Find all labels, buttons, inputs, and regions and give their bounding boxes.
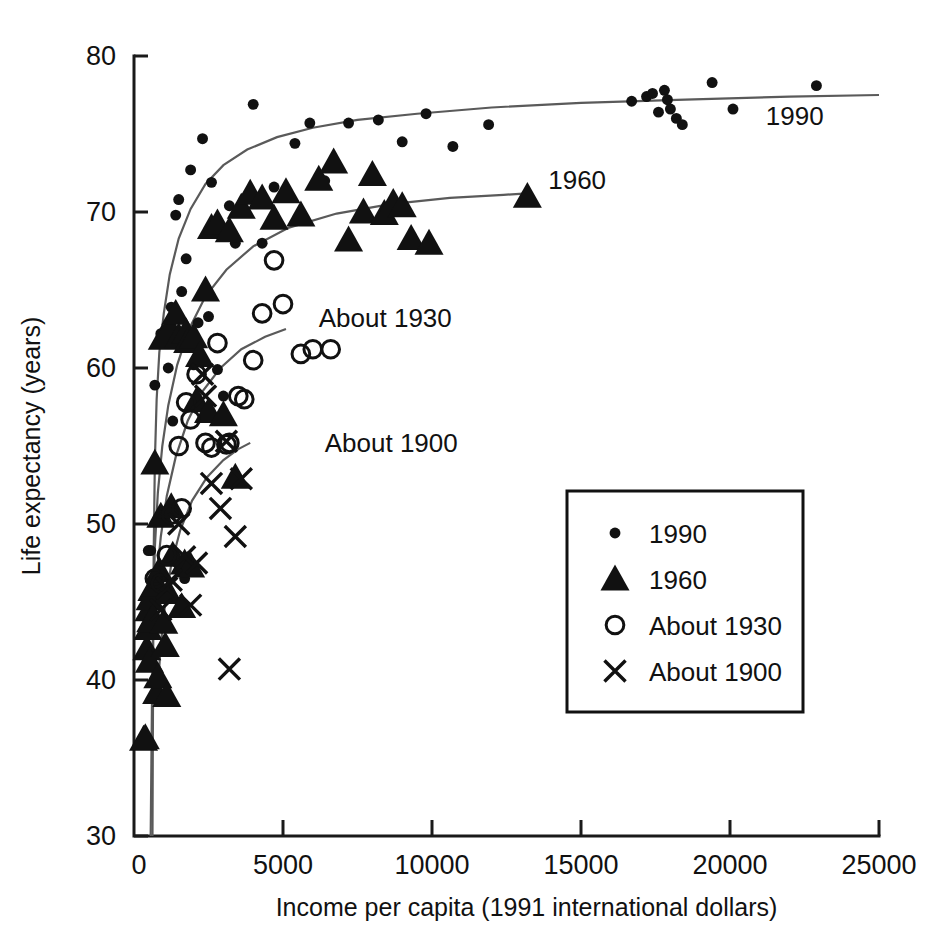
data-point [653,107,664,118]
data-point [170,210,181,221]
legend-marker-icon [610,528,621,539]
data-point [274,295,292,313]
data-point [185,164,196,175]
x-tick-label: 20000 [692,850,767,880]
legend-label: About 1930 [649,611,782,641]
data-point [447,141,458,152]
data-point [322,340,340,358]
data-point [218,391,229,402]
data-point [248,99,259,110]
data-point [811,80,822,91]
data-point [191,275,220,301]
data-point [707,77,718,88]
x-tick-label: 25000 [841,850,916,880]
data-point [265,252,283,270]
data-point [219,659,240,680]
x-tick-label: 0 [131,850,146,880]
data-point [647,88,658,99]
curve-annotations: 19901960About 1930About 1900 [319,101,824,459]
data-point [358,160,387,186]
data-point [149,380,160,391]
data-point [665,104,676,115]
data-point [203,311,214,322]
scatter-plot: 3040506070800500010000150002000025000 19… [0,0,942,933]
data-point [210,498,231,519]
x-tick-label: 10000 [394,850,469,880]
curve-annotation: 1960 [548,165,606,195]
data-point [181,253,192,264]
legend-label: 1990 [649,519,707,549]
data-point [319,148,348,174]
data-point [269,182,280,193]
legend-item-1960[interactable]: 1960 [600,564,706,595]
data-point [397,136,408,147]
data-point [286,201,315,227]
data-point [225,526,246,547]
data-point [145,545,156,556]
curve-annotation: About 1930 [319,303,452,333]
data-point [626,96,637,107]
data-point [253,305,271,323]
data-point [140,449,169,475]
y-tick-label: 30 [86,821,116,851]
data-point [167,416,178,427]
x-axis-title: Income per capita (1991 international do… [276,893,778,921]
data-point [483,119,494,130]
curve-annotation: 1990 [766,101,824,131]
data-point [304,118,315,129]
legend-label: 1960 [649,565,707,595]
y-tick-label: 50 [86,509,116,539]
data-point [289,138,300,149]
y-tick-label: 40 [86,665,116,695]
legend[interactable]: 19901960About 1930About 1900 [567,491,803,712]
data-point [659,85,670,96]
data-point [206,177,217,188]
data-point [173,194,184,205]
data-point [257,238,268,249]
curve-annotation: About 1900 [325,428,458,458]
x-tick-label: 5000 [253,850,313,880]
x-tick-label: 15000 [543,850,618,880]
data-point [244,351,262,369]
data-point [677,119,688,130]
data-point [343,118,354,129]
axes: 3040506070800500010000150002000025000 [86,41,917,880]
legend-label: About 1900 [649,657,782,687]
data-point [212,364,223,375]
data-point [235,390,253,408]
data-point [334,226,363,252]
chart-root: 3040506070800500010000150002000025000 19… [0,0,942,933]
data-point [209,334,227,352]
data-point [197,133,208,144]
data-point [662,94,673,105]
data-point [728,104,739,115]
y-axis-title: Life expectancy (years) [17,317,45,575]
y-tick-label: 60 [86,353,116,383]
data-point [421,108,432,119]
data-point [176,286,187,297]
y-tick-label: 80 [86,41,116,71]
data-point [163,363,174,374]
y-tick-label: 70 [86,197,116,227]
data-point [373,115,384,126]
